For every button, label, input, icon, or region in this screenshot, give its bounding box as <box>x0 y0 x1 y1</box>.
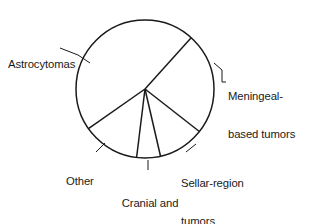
pie-label-meningeal-line1: Meningeal- <box>228 90 295 103</box>
pie-chart-figure: Astrocytomas Meningeal- based tumors Sel… <box>0 0 311 224</box>
leader-line-sellar <box>186 144 196 152</box>
pie-label-meningeal-line2: based tumors <box>228 128 295 141</box>
pie-label-meningeal-based-tumors: Meningeal- based tumors <box>228 65 295 166</box>
pie-label-cranial-and-spinal-nerve-tumors: Cranial and spinal nerve tumors <box>104 172 196 224</box>
pie-label-other-line1: Other <box>66 175 94 188</box>
leader-line-meningeal <box>214 63 226 82</box>
pie-label-astrocytomas-line1: Astrocytomas <box>8 58 75 71</box>
pie-label-astrocytomas: Astrocytomas <box>8 33 75 96</box>
pie-label-cranial-line1: Cranial and <box>104 197 196 210</box>
pie-label-other: Other <box>66 150 94 213</box>
leader-line-other <box>96 143 105 152</box>
